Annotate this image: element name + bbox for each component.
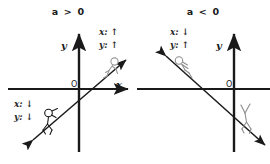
panel-positive-slope: a > 0 (0, 0, 137, 164)
panel-negative-slope: a < 0 (137, 0, 270, 164)
origin-label-negative: O (226, 80, 232, 89)
x-axis-label-positive: x (116, 79, 122, 90)
annotation-x-down-negative: x: ↓ (170, 27, 189, 38)
annotation-x-up-positive: x: ↑ (99, 27, 118, 38)
stick-figure-falling (241, 104, 251, 134)
annotation-y-up-positive: y: ↑ (99, 40, 118, 51)
annotation-y-up-negative: y: ↑ (170, 40, 189, 51)
y-axis-label-positive: y (61, 40, 67, 51)
annotation-x-down-positive: x: ↓ (14, 99, 33, 110)
y-axis-label-negative: y (216, 40, 222, 51)
linear-function-slope-diagram: a > 0 (0, 0, 270, 164)
origin-label-positive: O (71, 80, 77, 89)
negative-slope-axes-graphic (137, 0, 270, 164)
annotation-y-down-positive: y: ↓ (14, 112, 33, 123)
